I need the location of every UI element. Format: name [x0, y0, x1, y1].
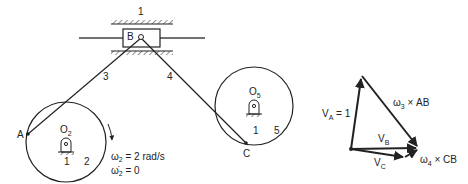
top-guide-hatch: [111, 20, 173, 24]
rotation-arrow-icon: [108, 124, 112, 140]
vc-label: VC: [374, 157, 386, 170]
bottom-guide-hatch: [111, 51, 173, 55]
polygon-origin: [349, 147, 353, 151]
o2-ground-label: 1: [64, 156, 70, 167]
frame-label: 1: [138, 6, 144, 17]
pin-b: [139, 35, 144, 40]
point-a: [26, 132, 30, 136]
vector-va: [351, 79, 361, 149]
o5-label: O5: [249, 86, 261, 99]
point-c-label: C: [243, 148, 250, 159]
crank-5-label: 5: [274, 125, 280, 136]
o2-label: O2: [60, 124, 72, 137]
point-c: [244, 141, 248, 145]
link-3: [28, 38, 141, 134]
ground-pivot-o2: [58, 138, 74, 155]
vector-vc: [351, 149, 403, 157]
velocity-polygon: [349, 76, 417, 157]
vector-vb: [351, 148, 416, 149]
o5-ground-label: 1: [253, 125, 259, 136]
va-label: VA = 1: [322, 108, 351, 121]
ground-pivot-o5: [246, 100, 262, 117]
alpha2-text: ω̇2 = 0: [111, 165, 140, 177]
mechanism-diagram: 1 B 3 4 A C O2 1 2 O5 1 5 ω2 = 2 rad/s ω…: [0, 0, 468, 184]
crank-2-label: 2: [84, 156, 90, 167]
vb-label: VB: [378, 133, 390, 146]
link-3-label: 3: [103, 71, 109, 82]
w4-cb-label: ω4 × CB: [420, 154, 457, 167]
omega2-text: ω2 = 2 rad/s: [111, 151, 165, 163]
w3-ab-label: ω3 × AB: [393, 97, 430, 110]
link-4-label: 4: [167, 71, 173, 82]
point-a-label: A: [17, 129, 24, 140]
vector-w4-cb: [405, 150, 417, 157]
slider-label: B: [127, 31, 134, 42]
link-4: [141, 38, 246, 143]
vector-w3-ab: [362, 76, 417, 146]
